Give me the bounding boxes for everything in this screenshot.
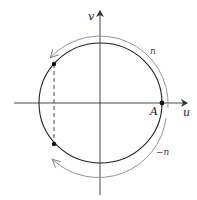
arc-label-n: n bbox=[150, 46, 156, 56]
point-upper bbox=[52, 62, 56, 66]
point-lower bbox=[52, 142, 56, 146]
point-a-label: A bbox=[149, 105, 158, 118]
circle-map-diagram: u v A n −n bbox=[0, 0, 197, 200]
arc-arrow-minus-n bbox=[53, 118, 166, 177]
arc-label-minus-n: −n bbox=[156, 147, 170, 157]
point-a bbox=[160, 101, 165, 106]
v-axis-label: v bbox=[88, 10, 95, 23]
u-axis-label: u bbox=[183, 106, 190, 119]
